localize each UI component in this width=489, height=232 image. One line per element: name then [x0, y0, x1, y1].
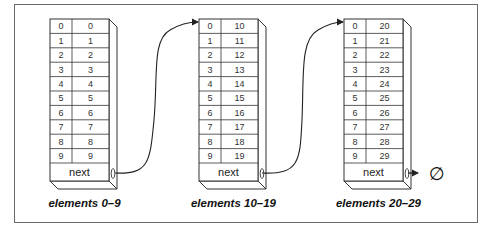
linked-list-diagram: 00112233445566778899nextelements 0–90101…: [0, 0, 489, 232]
value-cell: 14: [234, 79, 244, 89]
value-cell: 22: [379, 50, 389, 60]
pointer-arrow-2-to-3: [262, 22, 343, 173]
value-cell: 25: [379, 93, 389, 103]
index-cell: 0: [352, 21, 357, 31]
box-bottom-face: [50, 181, 117, 189]
index-cell: 8: [352, 137, 357, 147]
value-cell: 19: [234, 151, 244, 161]
index-cell: 6: [352, 108, 357, 118]
value-cell: 17: [234, 122, 244, 132]
value-cell: 12: [234, 50, 244, 60]
value-cell: 15: [234, 93, 244, 103]
index-cell: 2: [352, 50, 357, 60]
value-cell: 13: [234, 65, 244, 75]
next-field-label: next: [363, 166, 384, 178]
box-bottom-face: [344, 181, 411, 189]
index-cell: 8: [58, 137, 63, 147]
index-cell: 4: [352, 79, 357, 89]
value-cell: 26: [379, 108, 389, 118]
next-field-label: next: [218, 166, 239, 178]
index-cell: 1: [352, 36, 357, 46]
value-cell: 28: [379, 137, 389, 147]
array-node-3: 020121222323424525626727828929nextelemen…: [336, 19, 422, 209]
box-side-face: [403, 19, 411, 189]
array-node-2: 010111212313414515616717818919nextelemen…: [191, 19, 277, 209]
value-cell: 2: [88, 50, 93, 60]
box-bottom-face: [199, 181, 266, 189]
value-cell: 0: [88, 21, 93, 31]
index-cell: 7: [58, 122, 63, 132]
value-cell: 29: [379, 151, 389, 161]
index-cell: 6: [58, 108, 63, 118]
value-cell: 27: [379, 122, 389, 132]
next-field-label: next: [69, 166, 90, 178]
index-cell: 0: [58, 21, 63, 31]
value-cell: 1: [88, 36, 93, 46]
value-cell: 5: [88, 93, 93, 103]
value-cell: 11: [235, 36, 244, 46]
index-cell: 9: [58, 151, 63, 161]
value-cell: 21: [379, 36, 389, 46]
value-cell: 4: [88, 79, 93, 89]
value-cell: 9: [88, 151, 93, 161]
index-cell: 2: [58, 50, 63, 60]
index-cell: 7: [207, 122, 212, 132]
index-cell: 9: [207, 151, 212, 161]
index-cell: 7: [352, 122, 357, 132]
box-side-face: [258, 19, 266, 189]
index-cell: 1: [58, 36, 63, 46]
index-cell: 3: [207, 65, 212, 75]
value-cell: 10: [234, 21, 244, 31]
value-cell: 6: [88, 108, 93, 118]
value-cell: 24: [379, 79, 389, 89]
pointer-arrow-1-to-2: [115, 22, 198, 173]
index-cell: 5: [207, 93, 212, 103]
index-cell: 4: [58, 79, 63, 89]
null-terminator-icon: ∅: [429, 163, 445, 184]
index-cell: 0: [207, 21, 212, 31]
value-cell: 8: [88, 137, 93, 147]
array-node-1: 00112233445566778899nextelements 0–9: [48, 19, 121, 209]
value-cell: 3: [88, 65, 93, 75]
index-cell: 3: [58, 65, 63, 75]
value-cell: 7: [88, 122, 93, 132]
value-cell: 18: [234, 137, 244, 147]
pointer-origin-icon: [111, 169, 115, 179]
node-caption: elements 0–9: [48, 197, 121, 209]
index-cell: 8: [207, 137, 212, 147]
value-cell: 23: [379, 65, 389, 75]
index-cell: 2: [207, 50, 212, 60]
node-caption: elements 20–29: [336, 197, 422, 209]
index-cell: 3: [352, 65, 357, 75]
value-cell: 20: [379, 21, 389, 31]
value-cell: 16: [234, 108, 244, 118]
index-cell: 1: [207, 36, 212, 46]
index-cell: 5: [58, 93, 63, 103]
index-cell: 6: [207, 108, 212, 118]
index-cell: 9: [352, 151, 357, 161]
index-cell: 5: [352, 93, 357, 103]
node-caption: elements 10–19: [191, 197, 277, 209]
box-side-face: [109, 19, 117, 189]
index-cell: 4: [207, 79, 212, 89]
